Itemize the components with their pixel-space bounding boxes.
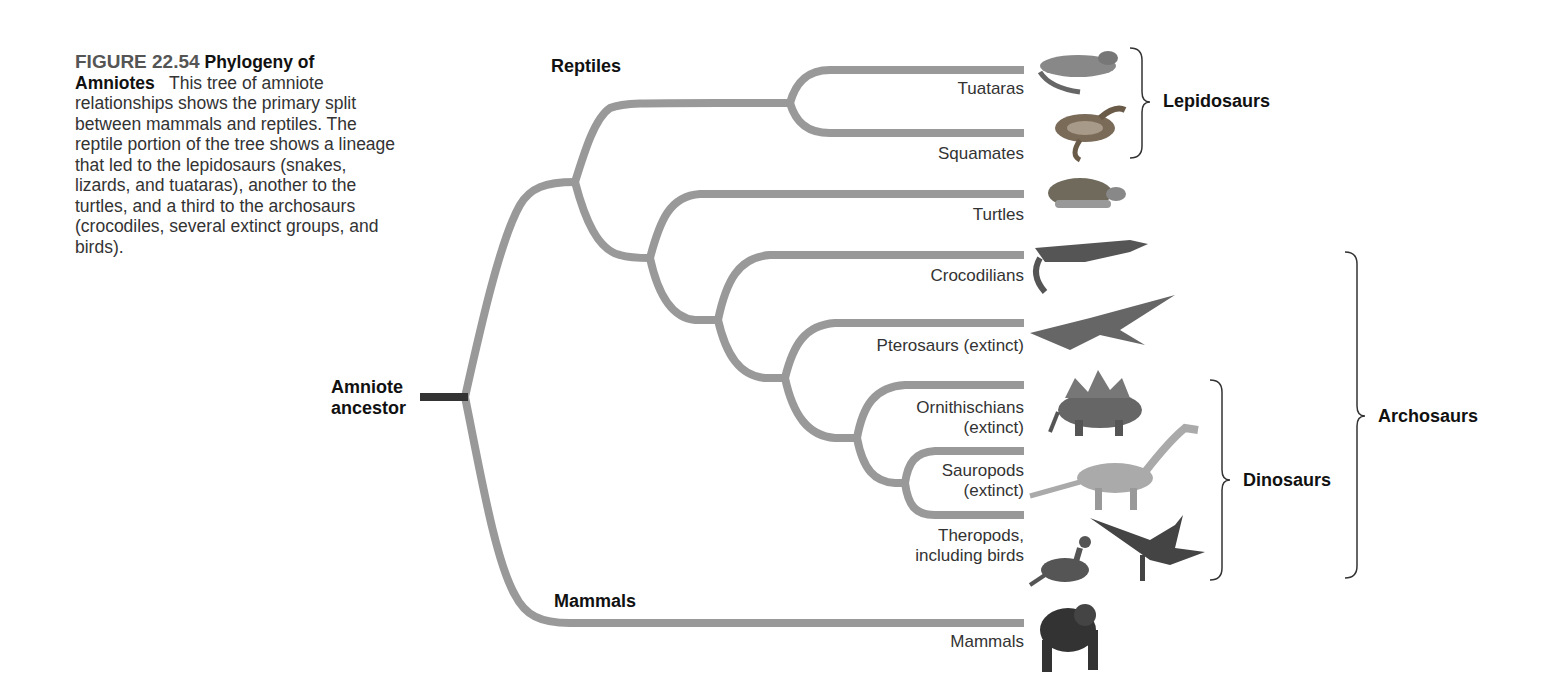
tip-label-squamates: Squamates (938, 144, 1024, 164)
sauropod-icon (1030, 428, 1198, 510)
tip-label-tuataras: Tuataras (958, 79, 1024, 99)
tip-label-ornithischians: Ornithischians (extinct) (916, 398, 1024, 438)
root-label-line1: Amniote (331, 377, 406, 398)
branch-ornithodira-dino (785, 378, 857, 438)
tip-label-sauropods-line1: Sauropods (942, 461, 1024, 481)
branch-turtle-archo (650, 258, 718, 320)
tuatara-icon (1040, 51, 1118, 92)
turtle-icon (1048, 178, 1126, 208)
phylogenetic-tree (0, 0, 1562, 700)
branch-archo-ornithodira (718, 320, 785, 378)
tip-label-sauropods: Sauropods (extinct) (942, 461, 1024, 501)
bracket-lepidosaurs (1130, 48, 1150, 158)
bracket-label-archosaurs: Archosaurs (1378, 406, 1478, 427)
group-label-reptiles: Reptiles (551, 56, 621, 77)
chimpanzee-icon (1040, 604, 1098, 672)
tip-label-turtles: Turtles (973, 205, 1024, 225)
branch-reptiles-turtlearcho (575, 182, 650, 258)
tip-label-ornithischians-line2: (extinct) (916, 418, 1024, 438)
branch-turtles (650, 194, 1024, 258)
tip-label-theropods-line2: including birds (915, 546, 1024, 566)
stegosaurus-icon (1050, 370, 1142, 436)
branch-dino-saurischia (857, 438, 905, 483)
bracket-label-lepidosaurs: Lepidosaurs (1163, 91, 1270, 112)
bracket-dinosaurs (1210, 380, 1230, 580)
root-label-line2: ancestor (331, 398, 406, 419)
tip-label-sauropods-line2: (extinct) (942, 481, 1024, 501)
branch-crocodilians (718, 255, 1024, 320)
tip-label-pterosaurs: Pterosaurs (extinct) (877, 336, 1024, 356)
root-label: Amniote ancestor (331, 377, 406, 419)
bracket-archosaurs (1345, 252, 1365, 578)
tip-label-crocodilians: Crocodilians (930, 266, 1024, 286)
group-label-mammals: Mammals (554, 591, 636, 612)
snake-icon (1055, 109, 1125, 160)
branch-reptiles-lepidosaurs (575, 103, 790, 182)
tip-label-theropods-line1: Theropods, (915, 526, 1024, 546)
branch-squamates (790, 103, 1024, 133)
crocodile-icon (1035, 240, 1148, 292)
branch-root-reptiles (465, 182, 575, 397)
root-stub (420, 393, 468, 401)
tip-label-ornithischians-line1: Ornithischians (916, 398, 1024, 418)
bracket-label-dinosaurs: Dinosaurs (1243, 470, 1331, 491)
tip-label-theropods: Theropods, including birds (915, 526, 1024, 566)
theropod-bird-icon (1030, 515, 1205, 585)
pterosaur-icon (1030, 295, 1175, 350)
tip-label-mammals: Mammals (950, 632, 1024, 652)
